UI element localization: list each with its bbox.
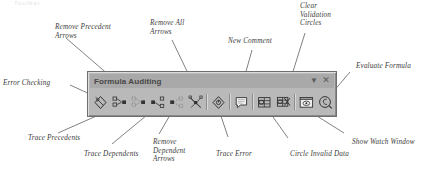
evaluate-formula-icon [318,95,333,110]
callout-new-comment: New Comment [228,37,272,46]
new-comment-button[interactable] [232,92,251,112]
circle-invalid-data-button[interactable] [255,92,274,112]
trace-precedents-icon [112,95,127,110]
remove-precedent-arrows-button[interactable] [129,92,148,112]
error-checking-button[interactable] [91,92,110,112]
remove-precedent-arrows-icon [131,95,146,110]
remove-dependent-arrows-button[interactable] [167,92,186,112]
trace-dependents-button[interactable] [148,92,167,112]
show-watch-window-button[interactable] [297,92,316,112]
show-watch-window-icon [299,95,314,110]
callout-trace-precedents: Trace Precedents [28,134,80,143]
callout-error-checking: Error Checking [3,79,50,88]
trace-error-icon [211,95,226,110]
callout-show-watch-window: Show Watch Window [352,138,415,147]
error-checking-icon [93,95,108,110]
trace-precedents-button[interactable] [110,92,129,112]
page-header-scrap: Toolbar [14,0,41,6]
callout-circle-invalid-data: Circle Invalid Data [290,150,349,159]
trace-dependents-icon [150,95,165,110]
diagram-canvas: Toolbar [0,0,431,173]
callout-remove-precedent-arrows: Remove Precedent Arrows [55,23,111,40]
toolbar-titlebar[interactable]: Formula Auditing ▼ ✕ [90,74,334,88]
callout-trace-error: Trace Error [216,150,252,159]
callout-trace-dependents: Trace Dependents [84,150,139,159]
remove-all-arrows-button[interactable] [186,92,205,112]
trace-error-button[interactable] [209,92,228,112]
formula-auditing-toolbar[interactable]: Formula Auditing ▼ ✕ [87,71,337,117]
remove-dependent-arrows-icon [169,95,184,110]
clear-validation-circles-button[interactable] [274,92,293,112]
clear-validation-circles-icon [276,95,291,110]
evaluate-formula-button[interactable] [316,92,335,112]
callout-remove-dependent-arrows: Remove Dependent Arrows [153,138,185,164]
callout-remove-all-arrows: Remove All Arrows [150,19,184,36]
circle-invalid-data-icon [257,95,272,110]
toolbar-button-strip [91,91,335,113]
callout-clear-validation-circles: Clear Validation Circles [300,2,331,28]
toolbar-title: Formula Auditing [90,77,162,86]
new-comment-icon [234,95,249,110]
chevron-down-icon[interactable]: ▼ [309,75,319,86]
remove-all-arrows-icon [188,95,203,110]
close-icon[interactable]: ✕ [321,75,331,86]
callout-evaluate-formula: Evaluate Formula [356,62,411,71]
